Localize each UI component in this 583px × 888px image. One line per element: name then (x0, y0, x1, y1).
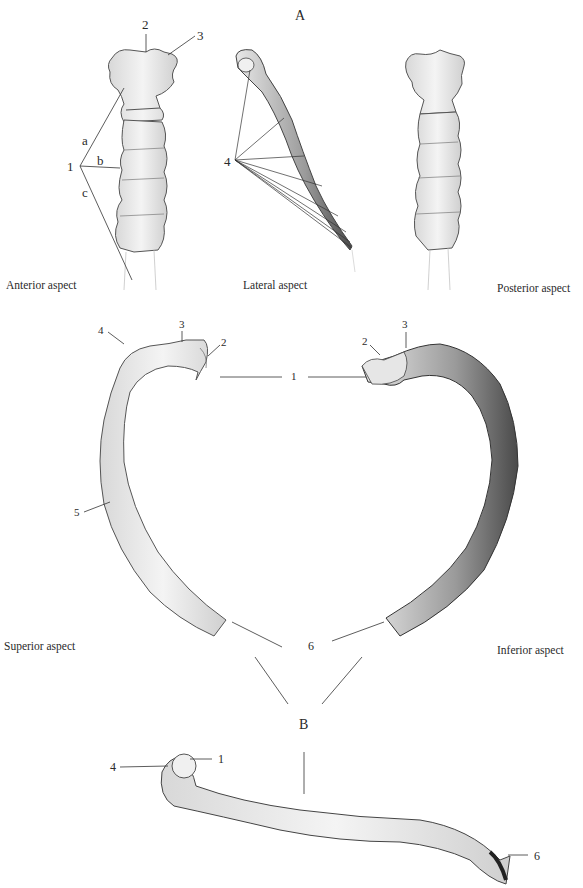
caption-superior-aspect: Superior aspect (4, 641, 75, 653)
label-2-anterior: 2 (142, 18, 149, 31)
rib-lateral-drawing (161, 754, 510, 884)
caption-posterior-aspect: Posterior aspect (497, 283, 570, 295)
label-4-lateral: 4 (224, 155, 231, 168)
label-6-rib: 6 (308, 640, 314, 652)
rib-inferior-drawing (362, 344, 518, 636)
label-4-lateral-rib: 4 (110, 761, 116, 773)
label-2-superior: 2 (221, 337, 227, 348)
label-3-superior: 3 (179, 319, 185, 330)
leader-lines-panel-b (255, 657, 362, 794)
label-2-inferior: 2 (362, 336, 368, 347)
label-3-anterior: 3 (197, 29, 204, 42)
sternum-anterior-drawing (108, 49, 177, 290)
label-1-anterior: 1 (67, 160, 74, 173)
label-a: a (82, 134, 88, 147)
panel-letter-a: A (295, 9, 305, 23)
rib-superior-drawing (100, 340, 226, 636)
label-6-lateral-rib: 6 (534, 850, 540, 862)
label-4-superior: 4 (98, 325, 104, 336)
label-1-lateral-rib: 1 (218, 753, 224, 765)
caption-inferior-aspect: Inferior aspect (497, 645, 564, 657)
label-3-inferior: 3 (402, 319, 408, 330)
label-1-rib: 1 (291, 371, 297, 382)
panel-letter-b: B (299, 718, 308, 732)
label-5-superior: 5 (74, 507, 80, 518)
caption-lateral-aspect: Lateral aspect (243, 280, 307, 292)
label-c: c (82, 186, 88, 199)
sternum-lateral-drawing (236, 50, 355, 272)
sternum-posterior-drawing (406, 50, 465, 290)
caption-anterior-aspect: Anterior aspect (6, 280, 77, 292)
label-b: b (97, 154, 104, 167)
